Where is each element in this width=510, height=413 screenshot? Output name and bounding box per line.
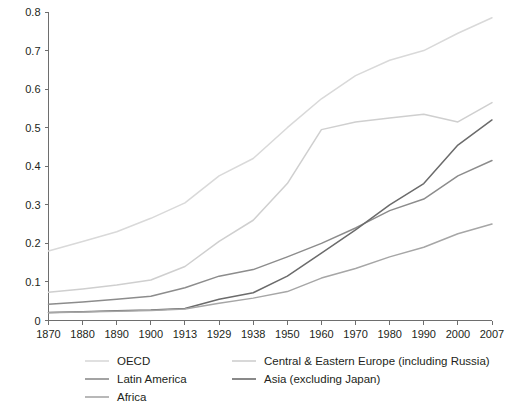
x-tick-label: 1950 xyxy=(275,328,299,340)
line-chart: 00.10.20.30.40.50.60.70.8 18701880189019… xyxy=(0,0,510,413)
x-tick-group: 1870188018901900191319291938195019601970… xyxy=(36,321,504,340)
legend-label: Africa xyxy=(117,391,147,403)
y-tick-label: 0.3 xyxy=(25,199,40,211)
y-tick-group: 00.10.20.30.40.50.60.70.8 xyxy=(25,6,48,327)
legend-item: OECD xyxy=(85,355,150,367)
y-tick-label: 0.1 xyxy=(25,276,40,288)
x-axis: 1870188018901900191319291938195019601970… xyxy=(36,321,504,340)
y-tick-label: 0.5 xyxy=(25,122,40,134)
legend-item: Asia (excluding Japan) xyxy=(232,373,381,385)
x-tick-label: 1980 xyxy=(377,328,401,340)
y-tick-label: 0 xyxy=(34,315,40,327)
x-tick-label: 1990 xyxy=(412,328,436,340)
x-tick-label: 1913 xyxy=(173,328,197,340)
y-axis: 00.10.20.30.40.50.60.70.8 xyxy=(25,6,48,327)
chart-canvas: 00.10.20.30.40.50.60.70.8 18701880189019… xyxy=(0,0,510,413)
x-tick-label: 1938 xyxy=(241,328,265,340)
series-line xyxy=(49,18,493,251)
x-tick-label: 2007 xyxy=(480,328,504,340)
legend-item: Central & Eastern Europe (including Russ… xyxy=(232,355,490,367)
x-tick-label: 2000 xyxy=(446,328,470,340)
y-tick-label: 0.4 xyxy=(25,160,40,172)
x-tick-label: 1880 xyxy=(70,328,94,340)
series-line xyxy=(49,120,493,312)
legend-item: Latin America xyxy=(85,373,187,385)
y-tick-label: 0.8 xyxy=(25,6,40,18)
legend-item: Africa xyxy=(85,391,147,403)
chart-legend: OECDCentral & Eastern Europe (including … xyxy=(85,355,490,403)
legend-label: OECD xyxy=(117,355,150,367)
series-group xyxy=(49,18,493,313)
legend-label: Latin America xyxy=(117,373,187,385)
legend-label: Asia (excluding Japan) xyxy=(264,373,381,385)
x-tick-label: 1890 xyxy=(104,328,128,340)
y-tick-label: 0.6 xyxy=(25,83,40,95)
y-tick-label: 0.2 xyxy=(25,237,40,249)
x-tick-label: 1970 xyxy=(343,328,367,340)
x-tick-label: 1960 xyxy=(309,328,333,340)
x-tick-label: 1870 xyxy=(36,328,60,340)
legend-label: Central & Eastern Europe (including Russ… xyxy=(264,355,490,367)
x-tick-label: 1929 xyxy=(207,328,231,340)
y-tick-label: 0.7 xyxy=(25,45,40,57)
x-tick-label: 1900 xyxy=(139,328,163,340)
